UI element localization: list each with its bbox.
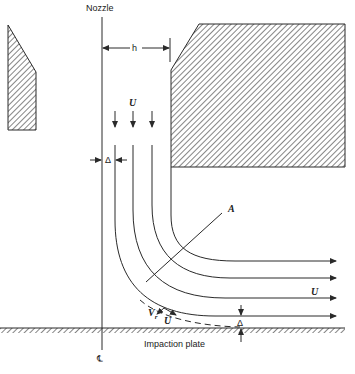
streamline-4: [171, 167, 336, 261]
nozzle-right-wall: [171, 24, 345, 167]
impaction-plate: [0, 328, 345, 333]
nozzle-label: Nozzle: [86, 3, 114, 13]
streamline-2: [133, 145, 336, 298]
wall-velocity-label: U: [164, 315, 172, 326]
streamline-1: [115, 145, 336, 316]
radial-velocity-label: Vr: [148, 307, 158, 321]
streamlines: [115, 145, 336, 316]
outlet-velocity-label: U: [311, 286, 319, 297]
point-a-label: A: [227, 203, 235, 214]
delta-top-label: Δ: [105, 155, 111, 165]
delta-bottom-label: Δ: [237, 318, 243, 328]
centerline-symbol: ℄: [96, 354, 103, 364]
radius-line: [146, 213, 222, 282]
jet-impaction-diagram: Nozzle ℄ h U Δ A Vr U U Δ Impaction plat…: [0, 0, 355, 374]
plate-label: Impaction plate: [144, 339, 205, 349]
inlet-velocity-label: U: [129, 97, 137, 108]
nozzle-left-wall: [8, 25, 36, 130]
h-label: h: [132, 43, 137, 53]
